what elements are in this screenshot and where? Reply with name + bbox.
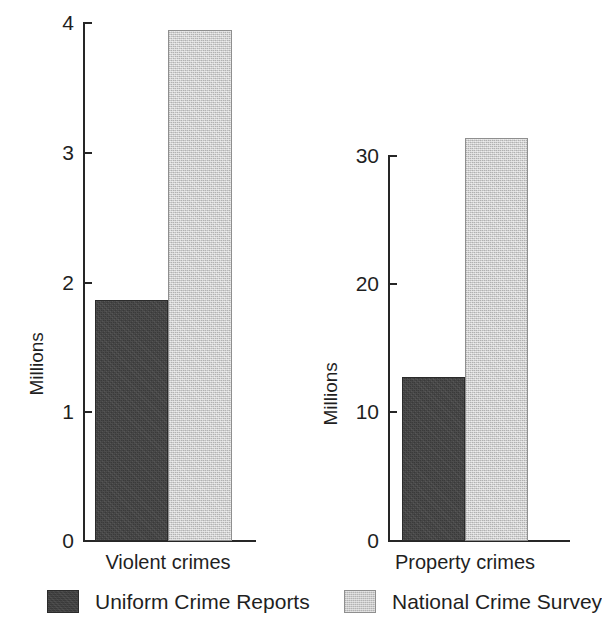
bar-violent-national-crime-survey (168, 30, 232, 541)
y-tick-right-20 (388, 283, 397, 285)
y-axis-title-right: Millions (321, 326, 340, 426)
bar-property-national-crime-survey (465, 138, 528, 541)
y-tick-left-1 (83, 411, 92, 413)
y-tick-label-right-0: 0 (323, 530, 379, 551)
x-category-label-property-crimes: Property crimes (365, 552, 565, 572)
legend-label-national-crime-survey: National Crime Survey (392, 591, 602, 612)
y-tick-label-left-4: 4 (34, 12, 74, 33)
y-tick-left-3 (83, 152, 92, 154)
y-tick-left-4 (83, 22, 92, 24)
y-tick-label-right-30: 30 (323, 145, 379, 166)
y-tick-label-left-1: 1 (34, 401, 74, 422)
chart-panel-violent-crimes: 4 3 2 1 0 Millions Violent crimes (0, 0, 300, 580)
y-tick-label-left-0: 0 (34, 530, 74, 551)
legend-item-national-crime-survey: National Crime Survey (344, 590, 602, 613)
x-category-label-violent-crimes: Violent crimes (68, 552, 268, 572)
y-axis-title-left: Millions (27, 296, 46, 396)
y-tick-label-left-2: 2 (34, 272, 74, 293)
bar-violent-uniform-crime-reports (95, 300, 168, 541)
y-tick-right-0 (388, 540, 397, 542)
y-tick-right-30 (388, 155, 397, 157)
y-tick-right-10 (388, 411, 397, 413)
legend-label-uniform-crime-reports: Uniform Crime Reports (95, 591, 310, 612)
y-axis-line-right (388, 155, 390, 541)
chart-panel-property-crimes: 30 20 10 0 Millions Property crimes (302, 0, 602, 580)
chart-legend: Uniform Crime Reports National Crime Sur… (0, 588, 602, 628)
y-tick-label-right-20: 20 (323, 273, 379, 294)
y-tick-label-left-3: 3 (34, 142, 74, 163)
legend-swatch-national-crime-survey (344, 590, 376, 613)
legend-item-uniform-crime-reports: Uniform Crime Reports (47, 590, 310, 613)
legend-swatch-uniform-crime-reports (47, 590, 79, 613)
y-tick-left-0 (83, 540, 92, 542)
y-tick-left-2 (83, 282, 92, 284)
bar-property-uniform-crime-reports (402, 377, 465, 541)
bar-chart-figure: 4 3 2 1 0 Millions Violent crimes 30 20 … (0, 0, 602, 633)
